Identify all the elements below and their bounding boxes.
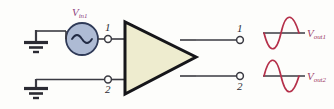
- waveform-2-label-base: V: [307, 70, 314, 82]
- output-waveform-1: [263, 17, 305, 49]
- output-terminal-1-label: 1: [237, 23, 243, 34]
- ground-top: [24, 30, 48, 52]
- sinusoidal-voltage-source: [66, 23, 98, 55]
- output-terminal-1-node[interactable]: [237, 37, 244, 44]
- waveform-1-label-vout1: Vout1: [307, 28, 326, 39]
- waveform-2-label-subscript: out2: [314, 76, 326, 84]
- input-terminal-2-node[interactable]: [105, 76, 112, 83]
- ground-bottom: [24, 79, 48, 98]
- output-terminal-2-label: 2: [237, 81, 243, 92]
- waveform-1-label-base: V: [307, 27, 314, 39]
- source-label-base: V: [72, 6, 79, 18]
- output-terminal-2-node[interactable]: [237, 73, 244, 80]
- input-terminal-2-label: 2: [105, 84, 111, 95]
- circuit-diagram-screenshot: Vin1 1 2 1 2 Vout1 Vout2: [0, 0, 334, 109]
- amplifier-triangle[interactable]: [125, 22, 196, 94]
- output-waveform-2: [263, 60, 305, 92]
- input-terminal-1-node[interactable]: [105, 36, 112, 43]
- source-label-vin1: Vin1: [72, 7, 87, 18]
- circuit-canvas: [0, 0, 334, 109]
- waveform-1-label-subscript: out1: [314, 33, 326, 41]
- source-label-subscript: in1: [79, 12, 88, 20]
- waveform-2-label-vout2: Vout2: [307, 71, 326, 82]
- input-terminal-1-label: 1: [105, 22, 111, 33]
